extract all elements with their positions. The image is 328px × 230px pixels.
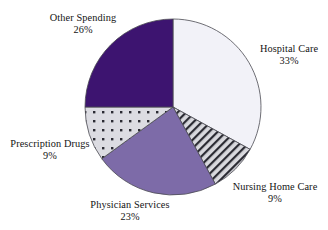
slice-label-percent: 23% (73, 211, 187, 223)
slice-label-percent: 9% (222, 193, 328, 205)
slice-label-name: Prescription Drugs (0, 138, 102, 150)
slice-label-percent: 9% (0, 150, 102, 162)
pie-slices-group (85, 19, 261, 195)
slice-label-nursing-home-care: Nursing Home Care 9% (222, 181, 328, 204)
slice-label-prescription-drugs: Prescription Drugs 9% (0, 138, 102, 161)
slice-label-physician-services: Physician Services 23% (73, 199, 187, 222)
slice-label-percent: 33% (248, 55, 328, 67)
slice-label-name: Other Spending (24, 12, 142, 24)
pie-chart-figure: Other Spending 26% Hospital Care 33% Nur… (0, 0, 328, 230)
slice-label-name: Nursing Home Care (222, 181, 328, 193)
slice-label-hospital-care: Hospital Care 33% (248, 43, 328, 66)
slice-label-other-spending: Other Spending 26% (24, 12, 142, 35)
slice-label-name: Physician Services (73, 199, 187, 211)
slice-label-percent: 26% (24, 24, 142, 36)
slice-label-name: Hospital Care (248, 43, 328, 55)
